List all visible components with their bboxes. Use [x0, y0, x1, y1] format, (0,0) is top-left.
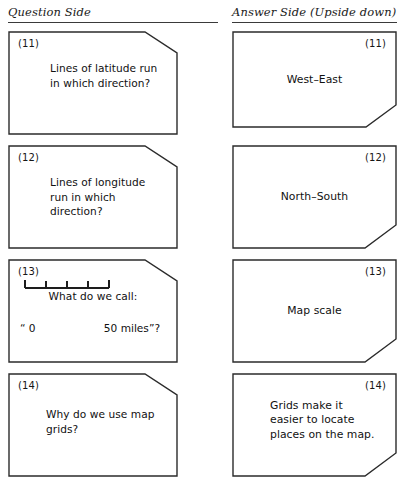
question-card-14[interactable]: (14) Why do we use map grids? [8, 373, 178, 477]
answer-text: North–South [232, 190, 397, 205]
map-scale-bar-icon [24, 279, 110, 290]
question-card-11[interactable]: (11) Lines of latitude run in which dire… [8, 31, 178, 135]
question-text: What do we call: [8, 289, 178, 304]
question-header-divider [8, 22, 218, 23]
answer-header-divider [232, 22, 397, 23]
card-number: (13) [18, 266, 39, 277]
question-card-12[interactable]: (12) Lines of longitude run in which dir… [8, 145, 178, 249]
scale-left-label: “ 0 [20, 321, 36, 335]
answer-text: Grids make it easier to locate places on… [270, 399, 377, 443]
scale-right-label: 50 miles”? [104, 321, 160, 335]
question-card-13[interactable]: (13) What do we call: “ 0 50 miles”? [8, 259, 178, 363]
card-number: (14) [365, 380, 386, 391]
card-number: (12) [365, 152, 386, 163]
card-number: (13) [365, 266, 386, 277]
answer-card-12[interactable]: (12) North–South [232, 145, 397, 249]
card-number: (11) [365, 38, 386, 49]
answer-text: West–East [232, 72, 397, 87]
question-text: Why do we use map grids? [46, 407, 162, 436]
answer-card-14[interactable]: (14) Grids make it easier to locate plac… [232, 373, 397, 477]
answer-card-13[interactable]: (13) Map scale [232, 259, 397, 363]
question-text: Lines of latitude run in which direction… [50, 61, 162, 90]
answer-side-header: Answer Side (Upside down) [232, 5, 396, 19]
card-number: (14) [18, 380, 39, 391]
question-side-header: Question Side [8, 5, 91, 19]
map-scale-labels: “ 0 50 miles”? [20, 321, 166, 337]
card-number: (11) [18, 38, 39, 49]
answer-card-11[interactable]: (11) West–East [232, 31, 397, 128]
card-number: (12) [18, 152, 39, 163]
answer-text: Map scale [232, 304, 397, 319]
question-text: Lines of longitude run in which directio… [50, 175, 162, 219]
